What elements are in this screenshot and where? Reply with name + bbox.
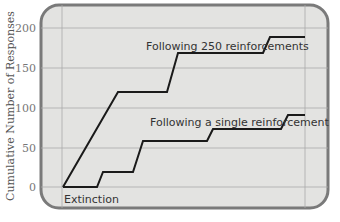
tick-50: 50 [22,142,36,155]
tick-0: 0 [29,181,36,194]
tick-200: 200 [15,22,36,35]
chart-panel [41,5,328,208]
y-ticks: 200 150 100 50 0 [15,22,36,194]
tick-150: 150 [15,62,36,75]
label-250-reinforcements: Following 250 reinforcements [146,40,309,53]
label-single-reinforcement: Following a single reinforcement [150,116,330,129]
tick-100: 100 [15,102,36,115]
chart: 200 150 100 50 0 Following 250 reinforce… [0,0,340,222]
label-extinction: Extinction [64,193,119,206]
